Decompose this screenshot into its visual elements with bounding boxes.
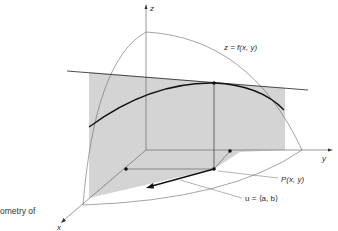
leader-line-p <box>218 171 278 178</box>
y-intercept-dot <box>228 149 232 153</box>
caption-fragment: ometry of <box>0 206 35 216</box>
vector-label: u = ⟨a, b⟩ <box>245 194 278 203</box>
directional-derivative-diagram: z y x z = f(x, y) P(x, y) u = ⟨a, b⟩ <box>0 0 338 231</box>
point-p-dot <box>212 167 216 171</box>
z-axis-arrow-icon <box>145 4 148 9</box>
x-axis-label: x <box>56 223 62 231</box>
point-label: P(x, y) <box>281 175 304 184</box>
y-axis-arrow-icon <box>328 149 333 152</box>
x-intercept-dot <box>124 167 128 171</box>
tangent-point-dot <box>212 81 216 85</box>
surface-label: z = f(x, y) <box>223 43 257 52</box>
y-axis-label: y <box>321 154 327 163</box>
z-axis-label: z <box>149 4 154 13</box>
